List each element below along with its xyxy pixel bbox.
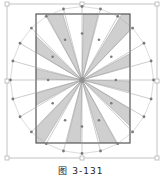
outline-segment [144,43,151,61]
control-point[interactable] [131,131,134,134]
resize-handle[interactable] [5,79,9,83]
outline-segment [82,151,101,154]
ray-wedge [15,0,82,80]
control-point[interactable] [30,131,33,134]
outline-segment [31,16,46,28]
control-point[interactable] [45,15,48,18]
control-point[interactable] [99,150,102,153]
outline-segment [63,151,82,154]
center-point [79,77,85,83]
outline-segment [20,117,31,132]
control-point[interactable] [45,142,48,145]
anchor-point[interactable] [81,125,84,128]
sunburst-rays [0,0,162,176]
anchor-point[interactable] [110,102,113,105]
resize-handle[interactable] [155,79,159,83]
control-point[interactable] [62,150,65,153]
outline-segment [133,28,144,43]
outline-segment [101,9,118,16]
resize-handle[interactable] [155,2,159,6]
anchor-point[interactable] [64,119,67,122]
anchor-point[interactable] [110,55,113,58]
outline-segment [46,144,63,151]
outline-segment [101,144,118,151]
resize-handle[interactable] [5,2,9,6]
control-point[interactable] [131,27,134,30]
outline-segment [144,99,151,117]
control-point[interactable] [116,15,119,18]
figure-caption: 图 3-131 [0,166,162,176]
control-point[interactable] [9,79,12,82]
outline-segment [151,61,153,80]
outline-segment [133,117,144,132]
control-point[interactable] [99,8,102,11]
handle-line [20,80,82,117]
anchor-point[interactable] [51,55,54,58]
anchor-point[interactable] [51,102,54,105]
outline-segment [20,28,31,43]
outline-segment [151,80,153,99]
handle-line [82,43,144,80]
anchor-point[interactable] [115,79,118,82]
resize-handle[interactable] [155,156,159,160]
control-point[interactable] [150,60,153,63]
resize-handle[interactable] [80,156,84,160]
ray-wedge [82,80,149,176]
control-point[interactable] [143,115,146,118]
control-point[interactable] [19,115,22,118]
control-point[interactable] [150,98,153,101]
control-point[interactable] [116,142,119,145]
ray-wedge [82,80,162,176]
anchor-point[interactable] [64,38,67,41]
outline-segment [13,99,20,117]
control-point[interactable] [62,8,65,11]
outline-segment [10,61,12,80]
outline-segment [63,7,82,10]
control-point[interactable] [81,152,84,155]
outline-segment [82,7,101,10]
outline-segment [10,80,12,99]
control-point[interactable] [143,42,146,45]
control-point[interactable] [19,42,22,45]
outline-segment [13,43,20,61]
anchor-point[interactable] [81,32,84,35]
anchor-point[interactable] [47,79,50,82]
control-point[interactable] [30,27,33,30]
anchor-point[interactable] [98,38,101,41]
control-point[interactable] [11,60,14,63]
control-point[interactable] [11,98,14,101]
control-point[interactable] [81,5,84,8]
starburst-diagram [0,0,162,176]
anchor-point[interactable] [98,119,101,122]
control-point[interactable] [152,79,155,82]
resize-handle[interactable] [5,156,9,160]
